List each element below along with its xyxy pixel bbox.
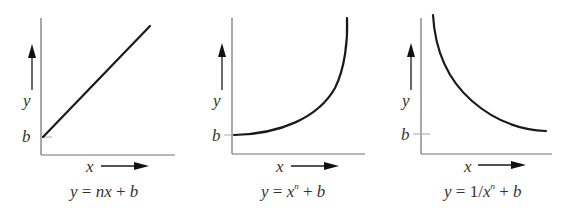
- y-axis-label: y: [211, 91, 221, 110]
- x-axis-label: x: [463, 157, 472, 176]
- intercept-label: b: [22, 127, 31, 146]
- inverse-power-curve: [433, 15, 546, 131]
- intercept-label: b: [401, 125, 410, 144]
- x-axis-label: x: [85, 157, 94, 176]
- y-direction-arrow-icon: [407, 43, 415, 90]
- panel-linear: y b x y = nx + b: [21, 18, 175, 201]
- figure-canvas: y b x y = nx + b y b x y = xn + b: [0, 0, 572, 214]
- equation-caption: y = 1/xn + b: [442, 181, 522, 201]
- y-direction-arrow-icon: [218, 43, 226, 90]
- x-direction-arrow-icon: [478, 161, 526, 169]
- equation-caption: y = xn + b: [259, 181, 325, 201]
- intercept-label: b: [212, 126, 221, 145]
- x-axis-label: x: [275, 157, 284, 176]
- power-curve: [234, 18, 347, 135]
- linear-curve: [43, 26, 150, 137]
- y-axis-label: y: [400, 91, 410, 110]
- panel-inverse-power: y b x y = 1/xn + b: [400, 15, 552, 201]
- panel-power: y b x y = xn + b: [211, 18, 365, 201]
- x-direction-arrow-icon: [101, 162, 149, 170]
- y-axis-label: y: [21, 91, 31, 110]
- y-direction-arrow-icon: [28, 44, 36, 90]
- x-direction-arrow-icon: [291, 162, 339, 170]
- equation-caption: y = nx + b: [68, 182, 138, 201]
